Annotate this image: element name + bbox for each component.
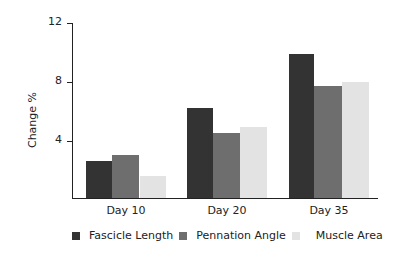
x-tick-label: Day 35 (289, 204, 369, 217)
bar-pennation-day10 (112, 155, 139, 198)
legend-label: Pennation Angle (196, 229, 286, 242)
x-axis-line (72, 198, 378, 199)
y-tick-12 (67, 23, 72, 24)
bar-fascicle-day20 (187, 108, 213, 198)
legend-label: Muscle Area (316, 229, 383, 242)
legend: Fascicle Length Pennation Angle Muscle A… (72, 229, 389, 242)
y-tick-label: 4 (42, 133, 62, 146)
legend-label: Fascicle Length (89, 229, 173, 242)
bar-fascicle-day35 (289, 54, 314, 198)
bar-muscle-day10 (140, 176, 166, 198)
y-tick-8 (67, 82, 72, 83)
bar-pennation-day20 (213, 133, 240, 198)
legend-swatch-icon (179, 232, 187, 240)
legend-item-muscle-area: Muscle Area (292, 229, 383, 242)
bar-fascicle-day10 (86, 161, 112, 198)
y-tick-label: 8 (42, 74, 62, 87)
legend-swatch-icon (292, 232, 300, 240)
bar-pennation-day35 (314, 86, 342, 198)
x-tick-label: Day 10 (86, 204, 166, 217)
y-tick-label: 12 (42, 15, 62, 28)
y-axis-line (72, 23, 73, 199)
y-axis-label: Change % (26, 92, 39, 148)
legend-swatch-icon (72, 232, 80, 240)
bar-muscle-day20 (240, 127, 267, 198)
bar-muscle-day35 (342, 82, 369, 198)
y-tick-4 (67, 141, 72, 142)
legend-item-fascicle: Fascicle Length (72, 229, 173, 242)
legend-item-pennation: Pennation Angle (179, 229, 286, 242)
x-tick-label: Day 20 (187, 204, 267, 217)
